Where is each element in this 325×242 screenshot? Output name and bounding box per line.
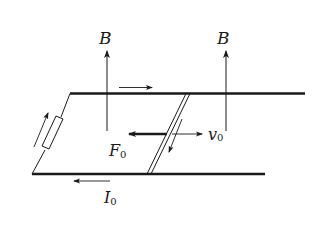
force-label: F0: [108, 141, 126, 160]
physics-diagram: B B F0 v0 I0: [0, 0, 325, 242]
current-subscript: 0: [110, 196, 116, 207]
force-symbol: F: [108, 141, 121, 160]
velocity-label: v0: [208, 125, 223, 144]
field-label-right: B: [216, 28, 230, 48]
force-subscript: 0: [120, 149, 126, 160]
resistor-branch: [32, 94, 70, 175]
velocity-subscript: 0: [217, 132, 223, 143]
velocity-symbol: v: [208, 125, 217, 144]
current-label: I0: [103, 188, 117, 207]
field-label-left: B: [98, 28, 112, 48]
